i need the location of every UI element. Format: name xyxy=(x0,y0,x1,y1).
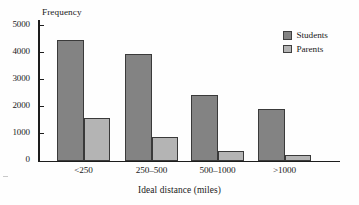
legend-swatch-parents-icon xyxy=(283,45,292,54)
bar-parents-2[interactable] xyxy=(152,137,179,161)
y-tick-label: 1000 xyxy=(12,127,30,137)
legend-label-students: Students xyxy=(297,30,328,40)
y-axis-title: Frequency xyxy=(42,7,82,17)
y-tick-label: 3000 xyxy=(12,73,30,83)
bar-group-3 xyxy=(191,20,244,161)
legend-label-parents: Parents xyxy=(297,44,324,54)
bar-parents-3[interactable] xyxy=(218,151,245,161)
bar-parents-1[interactable] xyxy=(84,118,111,160)
page-edge-mark xyxy=(3,176,8,177)
x-axis-line xyxy=(38,161,340,163)
bar-group-1 xyxy=(57,20,110,161)
chart-legend: Students Parents xyxy=(283,29,328,56)
bar-students-3[interactable] xyxy=(191,95,218,160)
y-tick-label: 5000 xyxy=(12,19,30,29)
y-tick-label: 0 xyxy=(26,154,30,164)
y-tick-label: 4000 xyxy=(12,46,30,56)
bar-students-1[interactable] xyxy=(57,40,84,160)
bar-students-4[interactable] xyxy=(258,109,285,160)
bar-chart-figure: Frequency 010002000300040005000 <250250–… xyxy=(0,0,359,205)
legend-item-parents: Parents xyxy=(283,43,328,56)
y-tick-label: 2000 xyxy=(12,100,30,110)
bar-parents-4[interactable] xyxy=(285,155,312,160)
legend-item-students: Students xyxy=(283,29,328,42)
x-axis-title: Ideal distance (miles) xyxy=(0,185,359,195)
bar-students-2[interactable] xyxy=(125,54,152,161)
legend-swatch-students-icon xyxy=(283,31,292,40)
bar-group-2 xyxy=(125,20,178,161)
x-category-label-4: >1000 xyxy=(244,165,325,175)
